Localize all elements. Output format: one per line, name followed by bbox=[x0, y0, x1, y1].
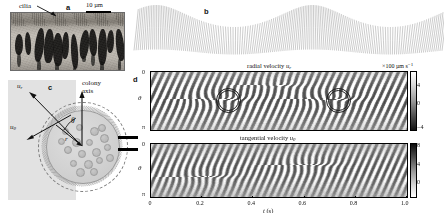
scalebar-label: 10 µm bbox=[86, 2, 103, 9]
x-tick-label: 0.8 bbox=[350, 200, 358, 206]
x-tickmark bbox=[304, 196, 305, 198]
colorbar-units-exponent: −1 bbox=[408, 62, 413, 67]
radial-velocity-title: radial velocity ur bbox=[247, 62, 291, 70]
bottom-ytick-pi: π bbox=[142, 191, 145, 197]
colony-axis-line1: colony bbox=[82, 79, 101, 87]
bottom-ytick-0: 0 bbox=[142, 141, 145, 147]
x-tickmark bbox=[355, 196, 356, 198]
radial-velocity-subscript: r bbox=[289, 65, 291, 70]
tangential-velocity-title: tangential velocity uθ bbox=[240, 134, 296, 142]
x-tick-label: 0.6 bbox=[299, 200, 307, 206]
colorbar-radial-tick-4: 4 bbox=[417, 82, 420, 88]
x-axis-label: t (s) bbox=[263, 207, 273, 213]
top-ytick-0: 0 bbox=[142, 69, 145, 75]
cilia-label: cilia bbox=[19, 3, 31, 10]
panel-c-colony-schematic: c colony axis θ r ur uθ bbox=[8, 78, 133, 206]
colorbar-tangential-gradient bbox=[411, 144, 416, 197]
x-tick-label: 0.2 bbox=[196, 200, 204, 206]
kymograph-radial-canvas bbox=[151, 72, 407, 130]
colony-axis-label: colony axis bbox=[82, 80, 101, 95]
colorbar-tangential-tick-0: 0 bbox=[417, 179, 420, 185]
defect-circle-2-outer bbox=[326, 88, 351, 113]
x-tickmark bbox=[150, 196, 151, 198]
panel-a-micrograph bbox=[10, 12, 125, 71]
colorbar-radial-tick-0: 0 bbox=[417, 100, 420, 106]
theta-angle-label: θ bbox=[71, 117, 75, 125]
figure-root: cilia a 10 µm c bbox=[0, 0, 447, 213]
u-theta-subscript: θ bbox=[14, 126, 16, 131]
colorbar-tangential-tick-8: 8 bbox=[417, 142, 420, 148]
radius-label: r bbox=[65, 136, 68, 143]
colorbar-radial-tick-neg4: −4 bbox=[417, 124, 423, 130]
bottom-yaxis-label: θ bbox=[138, 165, 141, 172]
panel-d-letter: d bbox=[133, 76, 138, 84]
colorbar-units-label: ×100 µm s−1 bbox=[382, 62, 413, 69]
x-tick-label: 1.0 bbox=[401, 200, 409, 206]
panel-c-letter: c bbox=[48, 84, 52, 92]
colorbar-tangential-tick-4: 4 bbox=[417, 161, 420, 167]
metachronal-wave-plot bbox=[132, 2, 444, 60]
x-tickmark bbox=[201, 196, 202, 198]
x-tickmark bbox=[252, 196, 253, 198]
tangential-velocity-subscript: θ bbox=[293, 137, 295, 142]
x-tickmark bbox=[406, 196, 407, 198]
colony-axis-line2: axis bbox=[82, 88, 101, 95]
panel-a-letter: a bbox=[66, 4, 70, 12]
defect-circle-1-outer bbox=[216, 88, 241, 113]
u-r-vector-label: ur bbox=[17, 83, 22, 90]
colorbar-tangential bbox=[410, 143, 417, 198]
colorbar-radial bbox=[410, 71, 417, 131]
micrograph-grain bbox=[11, 13, 124, 70]
scalebar-line bbox=[86, 11, 111, 13]
panel-b-metachronal-wave bbox=[132, 2, 444, 60]
x-tick-label: 0.4 bbox=[247, 200, 255, 206]
panel-b-letter: b bbox=[204, 8, 209, 16]
cilia-pointer-arrow bbox=[36, 5, 62, 19]
top-yaxis-label: θ bbox=[138, 95, 141, 102]
panel-d-kymographs: d radial velocity ur ×100 µm s−1 0 θ π 4… bbox=[132, 62, 446, 212]
u-theta-vector-label: uθ bbox=[10, 124, 16, 131]
x-tick-label: 0 bbox=[149, 200, 152, 206]
radial-velocity-title-text: radial velocity bbox=[247, 62, 286, 69]
colorbar-radial-gradient bbox=[411, 72, 416, 130]
panel-c-vectors bbox=[8, 78, 133, 206]
kymograph-tangential-canvas bbox=[151, 144, 407, 197]
top-ytick-pi: π bbox=[142, 124, 145, 130]
kymograph-tangential-velocity bbox=[150, 143, 408, 198]
u-r-subscript: r bbox=[21, 85, 23, 90]
kymograph-radial-velocity bbox=[150, 71, 408, 131]
colorbar-units-text: ×100 µm s bbox=[382, 63, 408, 69]
tangential-velocity-title-text: tangential velocity bbox=[240, 134, 290, 141]
x-axis-label-unit: (s) bbox=[265, 207, 273, 213]
